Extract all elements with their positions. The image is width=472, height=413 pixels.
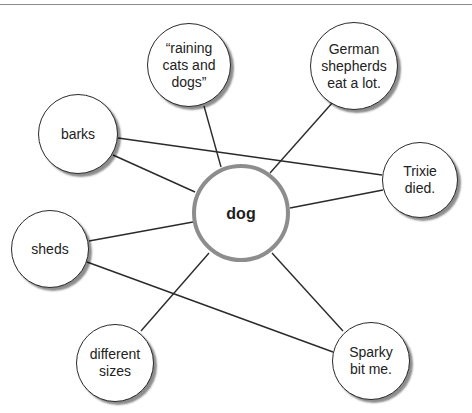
edge-sheds-dog <box>89 222 193 241</box>
node-sparky: Sparky bit me. <box>332 322 410 400</box>
node-label: different sizes <box>90 346 140 380</box>
node-german: German shepherds eat a lot. <box>310 22 398 110</box>
edge-raining-dog <box>204 106 221 167</box>
node-barks: barks <box>38 94 118 174</box>
node-raining: “raining cats and dogs” <box>147 23 231 107</box>
node-label: Trixie died. <box>403 163 437 197</box>
node-label: German shepherds eat a lot. <box>321 41 386 92</box>
node-sheds: sheds <box>11 210 89 288</box>
node-label: sheds <box>31 241 68 258</box>
edge-barks-dog <box>113 155 195 192</box>
node-different: different sizes <box>76 324 154 402</box>
edge-trixie-dog <box>290 190 383 208</box>
node-label: “raining cats and dogs” <box>163 40 216 91</box>
center-node-dog: dog <box>192 164 290 262</box>
node-label: dog <box>226 205 255 222</box>
edge-dog-sparky <box>272 253 343 331</box>
node-label: Sparky bit me. <box>349 344 393 378</box>
edge-german-dog <box>270 102 333 173</box>
node-label: barks <box>61 126 95 143</box>
node-trixie: Trixie died. <box>382 142 458 218</box>
edge-different-dog <box>141 253 209 331</box>
